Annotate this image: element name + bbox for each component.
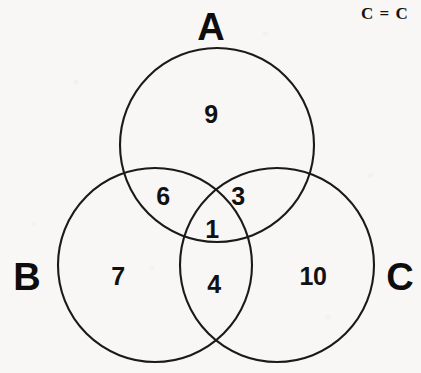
region-count-c-only: 10 <box>299 264 326 289</box>
region-count-a-b-and-c: 1 <box>205 217 219 242</box>
equation-annotation: C = C <box>361 4 409 24</box>
set-label-b: B <box>13 258 40 296</box>
region-count-b-and-c: 4 <box>207 272 221 297</box>
venn-diagram-figure: A B C 9 6 3 1 7 4 10 C = C <box>0 0 421 373</box>
set-circle-b <box>58 168 252 362</box>
set-circle-a <box>120 48 314 242</box>
region-count-b-only: 7 <box>111 264 125 289</box>
region-count-a-only: 9 <box>204 102 218 127</box>
set-label-c: C <box>386 258 413 296</box>
venn-circles <box>0 0 421 373</box>
set-label-a: A <box>197 8 224 46</box>
set-circle-c <box>180 168 374 362</box>
region-count-a-and-b: 6 <box>156 184 170 209</box>
region-count-a-and-c: 3 <box>231 184 245 209</box>
